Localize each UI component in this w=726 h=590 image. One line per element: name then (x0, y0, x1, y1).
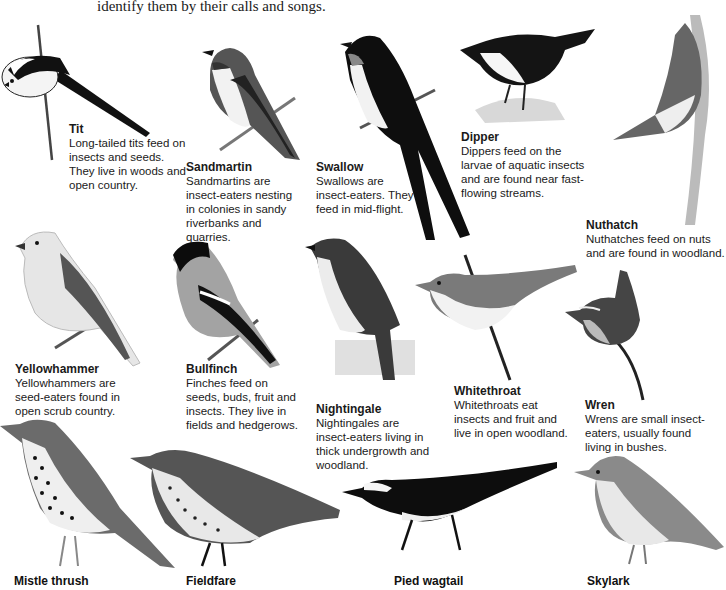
bird-description: Long-tailed tits feed on insects and see… (69, 136, 189, 192)
entry-nuthatch: Nuthatch Nuthatches feed on nuts and are… (586, 218, 726, 260)
fieldfare-illustration (130, 448, 345, 568)
bird-name: Nightingale (316, 402, 431, 416)
whitethroat-illustration (415, 250, 580, 380)
bird-name: Whitethroat (454, 384, 569, 398)
entry-tit: Tit Long-tailed tits feed on insects and… (69, 122, 189, 192)
dipper-illustration (455, 25, 605, 125)
intro-text: identify them by their calls and songs. (97, 0, 326, 15)
sandmartin-illustration (200, 30, 300, 165)
entry-nightingale: Nightingale Nightingales are insect-eate… (316, 402, 431, 472)
entry-bullfinch: Bullfinch Finches feed on seeds, buds, f… (186, 362, 298, 432)
bird-name: Wren (585, 398, 715, 412)
bird-name: Sandmartin (186, 160, 304, 174)
bird-description: Whitethroats eat insects and fruit and l… (454, 398, 569, 440)
bird-description: Finches feed on seeds, buds, fruit and i… (186, 376, 298, 432)
caption-fieldfare: Fieldfare (186, 574, 236, 588)
caption-mistle-thrush: Mistle thrush (14, 574, 89, 588)
bird-description: Nightingales are insect-eaters living in… (316, 416, 431, 472)
bird-name: Yellowhammer (15, 362, 137, 376)
bullfinch-illustration (168, 240, 283, 370)
bird-name: Tit (69, 122, 189, 136)
pied-wagtail-illustration (342, 460, 562, 560)
entry-dipper: Dipper Dippers feed on the larvae of aqu… (461, 130, 591, 200)
bird-description: Wrens are small insect-eaters, usually f… (585, 412, 715, 454)
bird-description: Swallows are insect-eaters. They feed in… (316, 174, 416, 216)
entry-whitethroat: Whitethroat Whitethroats eat insects and… (454, 384, 569, 440)
bird-description: Sandmartins are insect-eaters nesting in… (186, 174, 304, 244)
bird-name: Dipper (461, 130, 591, 144)
bird-name: Nuthatch (586, 218, 726, 232)
entry-swallow: Swallow Swallows are insect-eaters. They… (316, 160, 416, 216)
caption-skylark: Skylark (587, 574, 630, 588)
wren-illustration (565, 270, 650, 400)
bird-description: Yellowhammers are seed-eaters found in o… (15, 376, 137, 418)
yellowhammer-illustration (15, 228, 140, 368)
caption-pied-wagtail: Pied wagtail (394, 574, 463, 588)
entry-yellowhammer: Yellowhammer Yellowhammers are seed-eate… (15, 362, 137, 418)
bird-description: Nuthatches feed on nuts and are found in… (586, 232, 726, 260)
bird-description: Dippers feed on the larvae of aquatic in… (461, 144, 591, 200)
skylark-illustration (574, 452, 724, 567)
nightingale-illustration (305, 235, 415, 380)
entry-sandmartin: Sandmartin Sandmartins are insect-eaters… (186, 160, 304, 244)
bird-name: Swallow (316, 160, 416, 174)
bird-name: Bullfinch (186, 362, 298, 376)
nuthatch-illustration (605, 15, 725, 225)
entry-wren: Wren Wrens are small insect-eaters, usua… (585, 398, 715, 454)
